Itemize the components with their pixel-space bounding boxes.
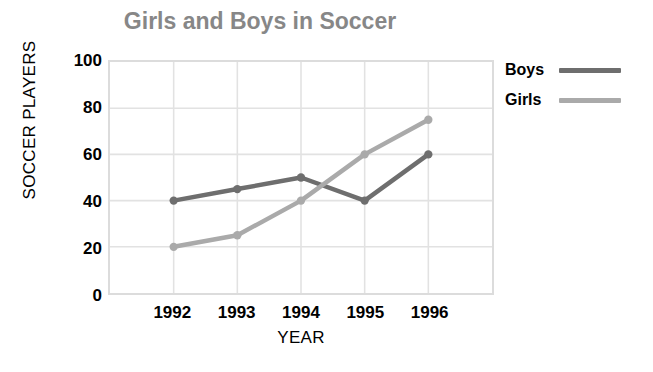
x-axis-tick-labels: 19921993199419951996 — [108, 303, 494, 327]
legend-label: Girls — [505, 91, 549, 109]
x-tick-label: 1996 — [390, 303, 470, 323]
data-series-layer — [110, 62, 492, 293]
y-tick-label: 40 — [40, 193, 102, 210]
chart-title: Girls and Boys in Soccer — [0, 8, 520, 35]
legend-line-swatch — [559, 68, 621, 73]
legend-item-girls: Girls — [505, 88, 645, 112]
y-tick-label: 80 — [40, 99, 102, 116]
soccer-players-line-chart: Girls and Boys in Soccer SOCCER PLAYERS … — [0, 0, 653, 372]
legend-item-boys: Boys — [505, 58, 645, 82]
y-axis-title: SOCCER PLAYERS — [20, 30, 40, 210]
data-point-marker — [233, 231, 241, 239]
chart-legend: BoysGirls — [505, 58, 645, 118]
data-point-marker — [297, 196, 305, 204]
y-tick-label: 60 — [40, 146, 102, 163]
y-tick-label: 20 — [40, 240, 102, 257]
data-point-marker — [170, 196, 178, 204]
legend-label: Boys — [505, 61, 549, 79]
data-point-marker — [170, 243, 178, 251]
data-point-marker — [233, 185, 241, 193]
data-point-marker — [424, 150, 432, 158]
x-axis-title: YEAR — [108, 328, 494, 348]
plot-area — [108, 60, 494, 295]
legend-line-swatch — [559, 98, 621, 103]
data-point-marker — [361, 196, 369, 204]
y-axis-tick-labels: 020406080100 — [40, 60, 102, 295]
data-point-marker — [424, 116, 432, 124]
y-tick-label: 0 — [40, 287, 102, 304]
data-point-marker — [297, 173, 305, 181]
data-point-marker — [361, 150, 369, 158]
y-tick-label: 100 — [40, 52, 102, 69]
